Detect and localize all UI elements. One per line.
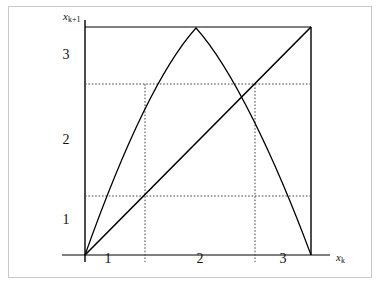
x-axis-label: xk <box>336 252 345 263</box>
y-axis-label-subscript: k+1 <box>68 15 81 24</box>
figure-root: 1 2 3 1 2 3 xk+1 xk <box>0 0 381 286</box>
x-axis-label-subscript: k <box>341 256 345 265</box>
y-tick-label-3: 3 <box>58 48 74 62</box>
x-tick-label-1: 1 <box>100 252 116 266</box>
x-tick-label-2: 2 <box>192 252 208 266</box>
y-tick-label-1: 1 <box>58 213 74 227</box>
y-tick-label-2: 2 <box>58 133 74 147</box>
y-axis-label: xk+1 <box>63 11 80 22</box>
identity-line <box>85 27 311 255</box>
x-tick-label-3: 3 <box>275 252 291 266</box>
